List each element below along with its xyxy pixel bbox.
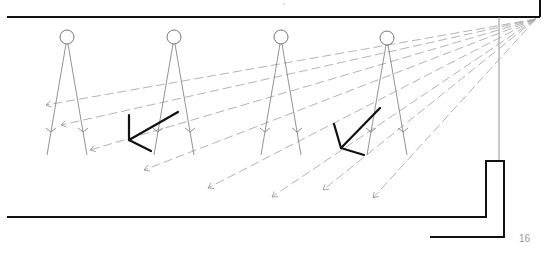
lamp-icon xyxy=(380,31,394,45)
cone-edge xyxy=(47,44,66,155)
ceiling xyxy=(7,0,540,17)
lamp-icon xyxy=(167,30,181,44)
cone-edge xyxy=(261,44,280,155)
reflector-2 xyxy=(334,108,380,155)
ray-line xyxy=(61,19,536,125)
cone-edge xyxy=(175,44,194,155)
ray-line xyxy=(272,19,536,197)
cone-edge xyxy=(367,45,386,155)
lamp-icon xyxy=(274,30,288,44)
luminaire-1 xyxy=(46,30,88,155)
reflected-rays xyxy=(46,19,536,198)
luminaire-4 xyxy=(366,31,408,155)
ray-line xyxy=(46,19,536,105)
cone-edge xyxy=(154,44,173,155)
cone-edge xyxy=(68,44,87,155)
page-number: 16 xyxy=(519,233,530,244)
luminaire-2 xyxy=(153,30,195,155)
arrowhead-icon xyxy=(144,165,150,171)
lighting-diagram xyxy=(0,0,548,256)
arrowhead-icon xyxy=(323,184,329,190)
cone-edge xyxy=(388,45,407,155)
floor-wall xyxy=(7,161,504,237)
luminaire-3 xyxy=(260,30,302,155)
ray-line xyxy=(90,19,536,150)
lamp-icon xyxy=(60,30,74,44)
reflectors xyxy=(129,108,380,155)
ray-arrowheads xyxy=(46,101,379,198)
ray-line xyxy=(373,19,536,198)
